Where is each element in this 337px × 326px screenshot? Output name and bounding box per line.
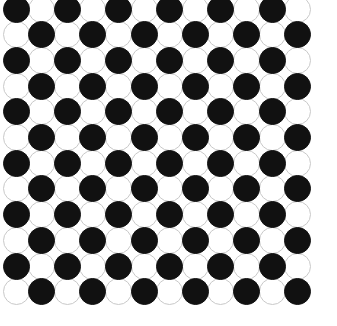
white-circle [182, 253, 209, 280]
black-circle [79, 21, 106, 48]
black-circle [207, 253, 234, 280]
white-circle [233, 0, 260, 23]
black-circle [79, 73, 106, 100]
black-circle [28, 278, 55, 305]
white-circle [28, 150, 55, 177]
black-circle [105, 0, 132, 23]
white-circle [284, 98, 311, 125]
black-circle [284, 278, 311, 305]
black-circle [182, 227, 209, 254]
white-circle [28, 98, 55, 125]
black-circle [207, 201, 234, 228]
black-circle [233, 21, 260, 48]
white-circle [207, 278, 234, 305]
black-circle [182, 21, 209, 48]
white-circle [3, 227, 30, 254]
black-circle [156, 150, 183, 177]
white-circle [182, 201, 209, 228]
white-circle [156, 73, 183, 100]
white-circle [105, 227, 132, 254]
black-circle [54, 0, 81, 23]
white-circle [105, 21, 132, 48]
black-circle [182, 278, 209, 305]
white-circle [259, 175, 286, 202]
black-circle [284, 124, 311, 151]
black-circle [156, 201, 183, 228]
black-circle [284, 73, 311, 100]
black-circle [131, 73, 158, 100]
black-circle [105, 47, 132, 74]
figure-root [0, 0, 337, 326]
white-circle [28, 47, 55, 74]
black-circle [284, 21, 311, 48]
white-circle [233, 98, 260, 125]
black-circle [3, 47, 30, 74]
black-circle [259, 201, 286, 228]
black-circle [131, 21, 158, 48]
white-circle [105, 278, 132, 305]
black-circle [156, 98, 183, 125]
white-circle [259, 73, 286, 100]
black-circle [156, 47, 183, 74]
white-circle [54, 124, 81, 151]
white-circle [131, 0, 158, 23]
white-circle [207, 73, 234, 100]
white-circle [105, 73, 132, 100]
white-circle [3, 124, 30, 151]
white-circle [28, 253, 55, 280]
white-circle [284, 47, 311, 74]
black-circle [3, 253, 30, 280]
black-circle [131, 227, 158, 254]
black-circle [3, 0, 30, 23]
black-circle [79, 227, 106, 254]
white-circle [131, 98, 158, 125]
white-circle [259, 278, 286, 305]
black-circle [233, 175, 260, 202]
black-circle [259, 98, 286, 125]
white-circle [259, 227, 286, 254]
white-circle [28, 0, 55, 23]
black-circle [54, 150, 81, 177]
black-circle [233, 73, 260, 100]
black-circle [259, 47, 286, 74]
white-circle [54, 278, 81, 305]
white-circle [54, 175, 81, 202]
black-circle [79, 278, 106, 305]
white-circle [79, 98, 106, 125]
black-circle [182, 124, 209, 151]
white-circle [207, 21, 234, 48]
black-circle [28, 175, 55, 202]
white-circle [54, 21, 81, 48]
white-circle [79, 0, 106, 23]
white-circle [79, 47, 106, 74]
white-circle [284, 150, 311, 177]
white-circle [131, 150, 158, 177]
black-circle [207, 150, 234, 177]
white-circle [131, 47, 158, 74]
black-circle [131, 124, 158, 151]
white-circle [105, 175, 132, 202]
black-circle [182, 175, 209, 202]
black-circle [259, 150, 286, 177]
black-circle [3, 98, 30, 125]
black-circle [3, 201, 30, 228]
white-circle [54, 73, 81, 100]
black-circle [131, 175, 158, 202]
black-circle [131, 278, 158, 305]
white-circle [233, 47, 260, 74]
black-circle [105, 201, 132, 228]
white-circle [284, 0, 311, 23]
white-circle [233, 201, 260, 228]
white-circle [54, 227, 81, 254]
white-circle [259, 124, 286, 151]
white-circle [28, 201, 55, 228]
white-circle [156, 227, 183, 254]
black-circle [28, 124, 55, 151]
black-circle [54, 253, 81, 280]
white-circle [131, 253, 158, 280]
black-circle [3, 150, 30, 177]
black-circle [105, 98, 132, 125]
white-circle [207, 124, 234, 151]
white-circle [156, 175, 183, 202]
white-circle [233, 253, 260, 280]
